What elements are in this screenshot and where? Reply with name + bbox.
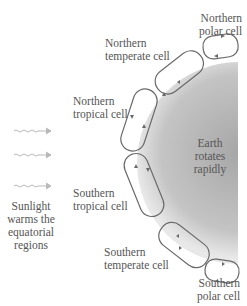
label-northern-temperate-cell: Northern temperate cell — [105, 37, 170, 63]
label-line: Sunlight — [2, 200, 60, 213]
label-line: polar cell — [197, 290, 240, 303]
label-northern-polar-cell: Northern polar cell — [199, 12, 242, 38]
label-southern-tropical-cell: Southern tropical cell — [73, 187, 128, 213]
label-northern-tropical-cell: Northern tropical cell — [73, 95, 128, 121]
label-sunlight: Sunlight warms the equatorial regions — [2, 200, 60, 252]
label-line: temperate cell — [105, 50, 170, 63]
label-line: regions — [2, 239, 60, 252]
sun-arrow-2 — [14, 154, 46, 156]
label-line: Southern — [197, 277, 240, 290]
label-line: warms the — [2, 213, 60, 226]
label-southern-temperate-cell: Southern temperate cell — [104, 246, 169, 272]
label-line: Northern — [199, 12, 242, 25]
label-line: Northern — [73, 95, 128, 108]
sun-arrow-1 — [14, 130, 46, 132]
label-line: polar cell — [199, 25, 242, 38]
label-line: temperate cell — [104, 259, 169, 272]
sun-arrow-3 — [14, 185, 46, 187]
atmospheric-circulation-diagram: Northern polar cell Northern temperate c… — [0, 0, 247, 306]
label-line: tropical cell — [73, 200, 128, 213]
label-line: Northern — [105, 37, 170, 50]
label-line: rapidly — [186, 163, 234, 176]
label-southern-polar-cell: Southern polar cell — [197, 277, 240, 303]
sunlight-arrows — [14, 128, 51, 189]
label-line: rotates — [186, 150, 234, 163]
label-earth: Earth rotates rapidly — [186, 137, 234, 176]
label-line: tropical cell — [73, 108, 128, 121]
label-line: Southern — [73, 187, 128, 200]
label-line: Earth — [186, 137, 234, 150]
label-line: equatorial — [2, 226, 60, 239]
label-line: Southern — [104, 246, 169, 259]
